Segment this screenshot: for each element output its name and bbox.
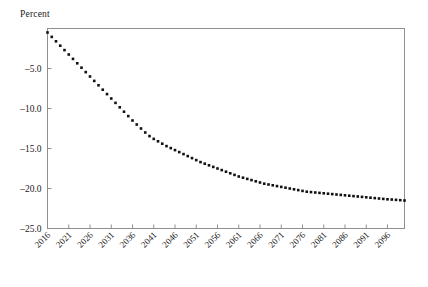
data-point-marker — [318, 192, 321, 195]
data-series-markers — [46, 31, 406, 202]
data-point-marker — [186, 155, 189, 158]
data-point-marker — [144, 131, 147, 134]
data-point-marker — [216, 167, 219, 170]
data-point-marker — [310, 191, 313, 194]
data-point-marker — [220, 169, 223, 172]
chart-container: Percent –5.0–10.0–15.0–20.0–25.0 2016202… — [0, 0, 428, 287]
x-tick-label: 2091 — [351, 230, 371, 250]
y-tick-label: –20.0 — [19, 184, 42, 194]
x-tick-label: 2061 — [224, 230, 244, 250]
data-point-marker — [140, 127, 143, 130]
x-tick-label: 2076 — [288, 229, 308, 249]
x-tick-label: 2031 — [96, 230, 116, 250]
data-point-marker — [76, 62, 79, 65]
data-point-marker — [352, 195, 355, 198]
data-point-marker — [267, 183, 270, 186]
data-point-marker — [361, 196, 364, 199]
data-point-marker — [369, 196, 372, 199]
data-point-marker — [55, 40, 58, 43]
data-point-marker — [195, 159, 198, 162]
data-point-marker — [127, 115, 130, 118]
data-point-marker — [382, 198, 385, 201]
x-tick-label: 2046 — [160, 229, 180, 249]
data-point-marker — [373, 197, 376, 200]
data-point-marker — [378, 197, 381, 200]
data-point-marker — [250, 179, 253, 182]
data-point-marker — [344, 194, 347, 197]
data-point-marker — [254, 180, 257, 183]
data-point-marker — [110, 97, 113, 100]
x-tick-label: 2071 — [266, 230, 286, 250]
data-point-marker — [59, 44, 62, 47]
x-tick-label: 2051 — [181, 230, 201, 250]
data-point-marker — [403, 199, 406, 202]
data-point-marker — [322, 192, 325, 195]
data-point-marker — [348, 194, 351, 197]
data-point-marker — [208, 164, 211, 167]
data-point-marker — [246, 178, 249, 181]
x-tick-label: 2021 — [54, 230, 74, 250]
data-point-marker — [259, 181, 262, 184]
data-point-marker — [80, 66, 83, 69]
x-tick-label: 2066 — [245, 229, 265, 249]
data-point-marker — [288, 187, 291, 190]
data-point-marker — [191, 157, 194, 160]
x-tick-label: 2056 — [203, 229, 223, 249]
data-point-marker — [229, 172, 232, 175]
data-point-marker — [131, 119, 134, 122]
y-tick-label: –15.0 — [19, 144, 42, 154]
data-point-marker — [84, 71, 87, 74]
data-point-marker — [242, 176, 245, 179]
plot-frame — [48, 29, 405, 229]
data-point-marker — [97, 84, 100, 87]
data-point-marker — [50, 36, 53, 39]
data-point-marker — [280, 186, 283, 189]
y-axis-ticks: –5.0–10.0–15.0–20.0–25.0 — [19, 64, 51, 234]
data-point-marker — [395, 199, 398, 202]
x-tick-label: 2026 — [75, 229, 95, 249]
data-point-marker — [72, 58, 75, 61]
data-point-marker — [399, 199, 402, 202]
data-point-marker — [67, 53, 70, 56]
x-tick-label: 2086 — [330, 229, 350, 249]
data-point-marker — [365, 196, 368, 199]
data-point-marker — [101, 88, 104, 91]
data-point-marker — [123, 110, 126, 113]
y-tick-label: –25.0 — [19, 224, 42, 234]
data-point-marker — [174, 149, 177, 152]
data-point-marker — [225, 170, 228, 173]
data-point-marker — [233, 174, 236, 177]
data-point-marker — [297, 189, 300, 192]
data-point-marker — [165, 145, 168, 148]
data-point-marker — [390, 198, 393, 201]
data-point-marker — [114, 102, 117, 105]
data-point-marker — [212, 166, 215, 169]
x-tick-label: 2081 — [309, 230, 329, 250]
data-point-marker — [157, 140, 160, 143]
data-point-marker — [301, 190, 304, 193]
data-point-marker — [327, 192, 330, 195]
data-point-marker — [199, 161, 202, 164]
data-point-marker — [237, 175, 240, 178]
x-tick-label: 2041 — [139, 230, 159, 250]
data-point-marker — [106, 93, 109, 96]
data-point-marker — [203, 162, 206, 165]
data-point-marker — [89, 75, 92, 78]
data-point-marker — [118, 106, 121, 109]
data-point-marker — [276, 185, 279, 188]
data-point-marker — [148, 135, 151, 138]
data-point-marker — [335, 193, 338, 196]
x-tick-label: 2036 — [118, 229, 138, 249]
data-point-marker — [178, 151, 181, 154]
data-point-marker — [161, 142, 164, 145]
data-point-marker — [356, 195, 359, 198]
data-point-marker — [182, 153, 185, 156]
data-point-marker — [339, 194, 342, 197]
data-point-marker — [152, 138, 155, 141]
data-point-marker — [293, 188, 296, 191]
data-point-marker — [93, 80, 96, 83]
data-point-marker — [284, 186, 287, 189]
data-point-marker — [169, 147, 172, 150]
line-chart-plot: –5.0–10.0–15.0–20.0–25.0 201620212026203… — [0, 0, 428, 287]
y-tick-label: –5.0 — [24, 64, 42, 74]
